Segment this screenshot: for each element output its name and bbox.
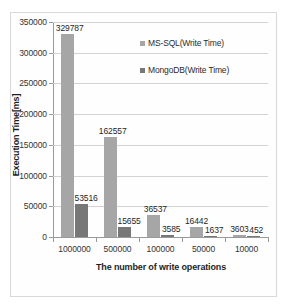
bar-ms-sql-100000 bbox=[147, 215, 160, 237]
x-axis-tick bbox=[268, 238, 269, 242]
x-axis-title: The number of write operations bbox=[53, 262, 269, 272]
y-axis-tick-label: 200000 bbox=[19, 109, 47, 119]
bar-mongodb-500000 bbox=[118, 227, 131, 237]
x-axis-tick-label: 100000 bbox=[147, 244, 175, 254]
bar-value-label: 162557 bbox=[99, 126, 127, 136]
y-axis-tick-label: 350000 bbox=[19, 17, 47, 27]
gridline bbox=[53, 114, 268, 115]
x-axis-tick bbox=[96, 238, 97, 242]
legend-label: MS-SQL(Write Time) bbox=[148, 38, 224, 48]
bar-value-label: 329787 bbox=[56, 23, 84, 33]
y-axis-tick-label: 300000 bbox=[19, 48, 47, 58]
bar-value-label: 53516 bbox=[75, 193, 98, 203]
y-axis-tick bbox=[49, 176, 53, 177]
bar-ms-sql-500000 bbox=[104, 137, 117, 237]
y-axis-tick bbox=[49, 114, 53, 115]
x-axis-tick-label: 10000 bbox=[235, 244, 258, 254]
x-axis-tick bbox=[139, 238, 140, 242]
chart-legend: MS-SQL(Write Time)MongoDB(Write Time) bbox=[140, 38, 260, 92]
y-axis-tick-labels: 0500001000001500002000002500003000003500… bbox=[0, 0, 47, 307]
y-axis-title: Execution Time[ms] bbox=[11, 70, 21, 200]
x-axis-line bbox=[53, 237, 269, 238]
chart-figure: 0500001000001500002000002500003000003500… bbox=[0, 0, 285, 307]
x-axis-tick bbox=[225, 238, 226, 242]
y-axis-tick bbox=[49, 22, 53, 23]
legend-item-mongodb: MongoDB(Write Time) bbox=[140, 65, 260, 75]
legend-swatch-icon bbox=[140, 41, 145, 46]
bar-value-label: 1637 bbox=[205, 225, 224, 235]
bar-ms-sql-50000 bbox=[190, 227, 203, 237]
bar-value-label: 452 bbox=[249, 225, 263, 235]
bar-ms-sql-10000 bbox=[233, 235, 246, 237]
y-axis-tick bbox=[49, 206, 53, 207]
gridline bbox=[53, 176, 268, 177]
bar-mongodb-100000 bbox=[161, 235, 174, 237]
legend-swatch-icon bbox=[140, 68, 145, 73]
legend-label: MongoDB(Write Time) bbox=[148, 65, 229, 75]
bar-mongodb-1000000 bbox=[75, 204, 88, 237]
x-axis-tick-label: 500000 bbox=[104, 244, 132, 254]
bar-value-label: 3603 bbox=[230, 224, 249, 234]
bar-mongodb-50000 bbox=[204, 236, 217, 237]
bar-value-label: 36537 bbox=[144, 204, 167, 214]
legend-item-ms-sql: MS-SQL(Write Time) bbox=[140, 38, 260, 48]
y-axis-tick-label: 250000 bbox=[19, 78, 47, 88]
y-axis-tick bbox=[49, 53, 53, 54]
bar-ms-sql-1000000 bbox=[61, 34, 74, 237]
y-axis-tick-label: 150000 bbox=[19, 140, 47, 150]
y-axis-tick bbox=[49, 145, 53, 146]
x-axis-tick-label: 1000000 bbox=[58, 244, 90, 254]
y-axis-tick-label: 50000 bbox=[24, 201, 47, 211]
y-axis-tick bbox=[49, 83, 53, 84]
bar-value-label: 15655 bbox=[118, 216, 141, 226]
gridline bbox=[53, 145, 268, 146]
gridline bbox=[53, 22, 268, 23]
y-axis-tick-label: 100000 bbox=[19, 171, 47, 181]
x-axis-tick bbox=[53, 238, 54, 242]
y-axis-tick-label: 0 bbox=[42, 232, 47, 242]
bar-mongodb-10000 bbox=[247, 236, 260, 237]
bar-value-label: 3585 bbox=[162, 224, 181, 234]
x-axis-tick-label: 50000 bbox=[192, 244, 215, 254]
x-axis-tick bbox=[182, 238, 183, 242]
